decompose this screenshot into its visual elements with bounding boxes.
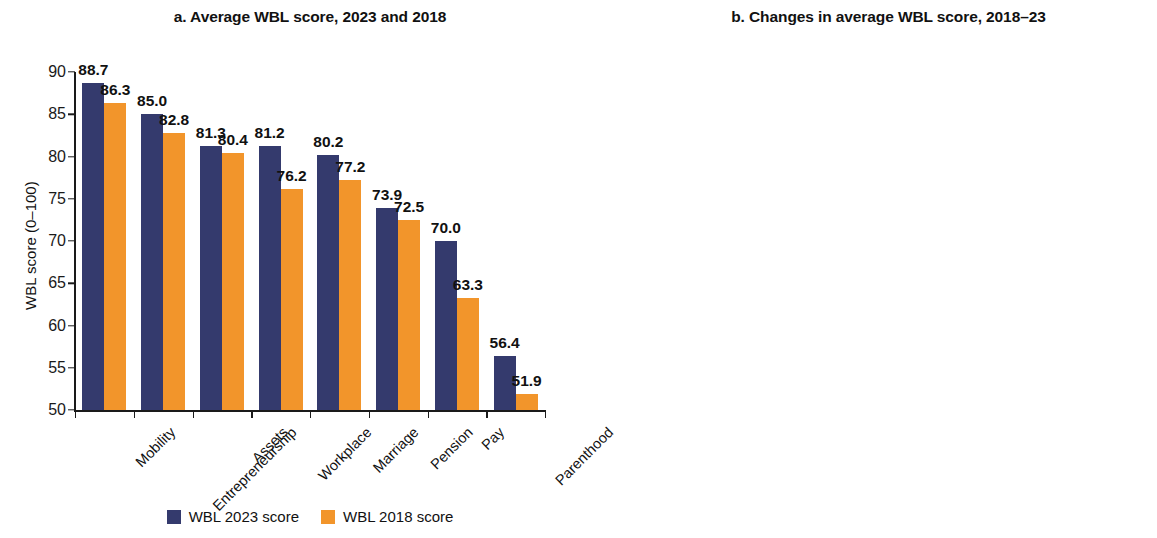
bar-value-label: 70.0 <box>431 219 461 237</box>
bar-value-label: 80.4 <box>218 131 248 149</box>
bar-value-label: 77.2 <box>335 158 365 176</box>
x-tick-mark <box>369 410 370 418</box>
y-tick-mark <box>68 409 75 410</box>
panel-a-plot-area: 505560657075808590 88.786.385.082.881.38… <box>75 72 545 410</box>
bar <box>259 146 281 410</box>
y-tick-mark <box>68 325 75 326</box>
x-tick-mark <box>428 410 429 418</box>
bar-value-label: 63.3 <box>453 276 483 294</box>
y-tick-label: 55 <box>48 359 66 377</box>
y-tick-mark <box>68 71 75 72</box>
panel-a-title: a. Average WBL score, 2023 and 2018 <box>0 8 620 26</box>
bar <box>281 189 303 410</box>
bar-value-label: 80.2 <box>313 133 343 151</box>
y-tick-label: 80 <box>48 148 66 166</box>
bar-value-label: 76.2 <box>277 167 307 185</box>
y-tick-label: 65 <box>48 274 66 292</box>
legend-item: WBL 2018 score <box>321 508 453 525</box>
panel-a-y-axis-title: WBL score (0–100) <box>22 181 39 310</box>
panel-b-title: b. Changes in average WBL score, 2018–23 <box>620 8 1157 26</box>
chart-panel-b: b. Changes in average WBL score, 2018–23… <box>620 0 1157 538</box>
bar-value-label: 72.5 <box>394 198 424 216</box>
y-tick-mark <box>68 367 75 368</box>
bar <box>457 298 479 410</box>
x-tick-mark <box>545 410 546 418</box>
bar-value-label: 88.7 <box>78 61 108 79</box>
bar <box>163 133 185 410</box>
legend-swatch <box>321 510 335 524</box>
bar-value-label: 86.3 <box>100 81 130 99</box>
x-tick-mark <box>134 410 135 418</box>
y-tick-mark <box>68 283 75 284</box>
bar <box>317 155 339 410</box>
bar <box>222 153 244 410</box>
legend-label: WBL 2018 score <box>343 508 453 525</box>
x-category-label: Pay <box>478 424 507 453</box>
bar <box>141 114 163 410</box>
x-tick-mark <box>251 410 252 418</box>
legend-swatch <box>167 510 181 524</box>
bar-value-label: 85.0 <box>137 92 167 110</box>
x-tick-mark <box>193 410 194 418</box>
panel-a-legend: WBL 2023 scoreWBL 2018 score <box>0 508 620 525</box>
bar <box>376 208 398 410</box>
x-tick-mark <box>75 410 76 418</box>
y-tick-mark <box>68 240 75 241</box>
bar <box>339 180 361 410</box>
y-tick-mark <box>68 198 75 199</box>
bar-value-label: 82.8 <box>159 111 189 129</box>
legend-item: WBL 2023 score <box>167 508 299 525</box>
x-category-label: Parenthood <box>552 424 616 488</box>
bar <box>104 103 126 410</box>
x-category-label: Pension <box>427 424 475 472</box>
x-category-label: Marriage <box>370 424 422 476</box>
x-tick-mark <box>486 410 487 418</box>
x-category-label: Mobility <box>133 424 179 470</box>
x-category-label: Workplace <box>315 424 375 484</box>
y-tick-label: 90 <box>48 63 66 81</box>
y-tick-mark <box>68 114 75 115</box>
y-tick-label: 70 <box>48 232 66 250</box>
bar <box>82 83 104 410</box>
y-tick-label: 85 <box>48 105 66 123</box>
y-tick-label: 60 <box>48 317 66 335</box>
bar-value-label: 81.2 <box>255 124 285 142</box>
bar-value-label: 56.4 <box>490 334 520 352</box>
figure-wbl-scores: a. Average WBL score, 2023 and 2018 WBL … <box>0 0 1157 538</box>
y-tick-label: 75 <box>48 190 66 208</box>
y-tick-label: 50 <box>48 401 66 419</box>
bar <box>516 394 538 410</box>
bar <box>398 220 420 410</box>
bar <box>435 241 457 410</box>
bar <box>200 146 222 410</box>
y-tick-mark <box>68 156 75 157</box>
chart-panel-a: a. Average WBL score, 2023 and 2018 WBL … <box>0 0 620 538</box>
bar-value-label: 51.9 <box>512 372 542 390</box>
legend-label: WBL 2023 score <box>189 508 299 525</box>
x-tick-mark <box>310 410 311 418</box>
